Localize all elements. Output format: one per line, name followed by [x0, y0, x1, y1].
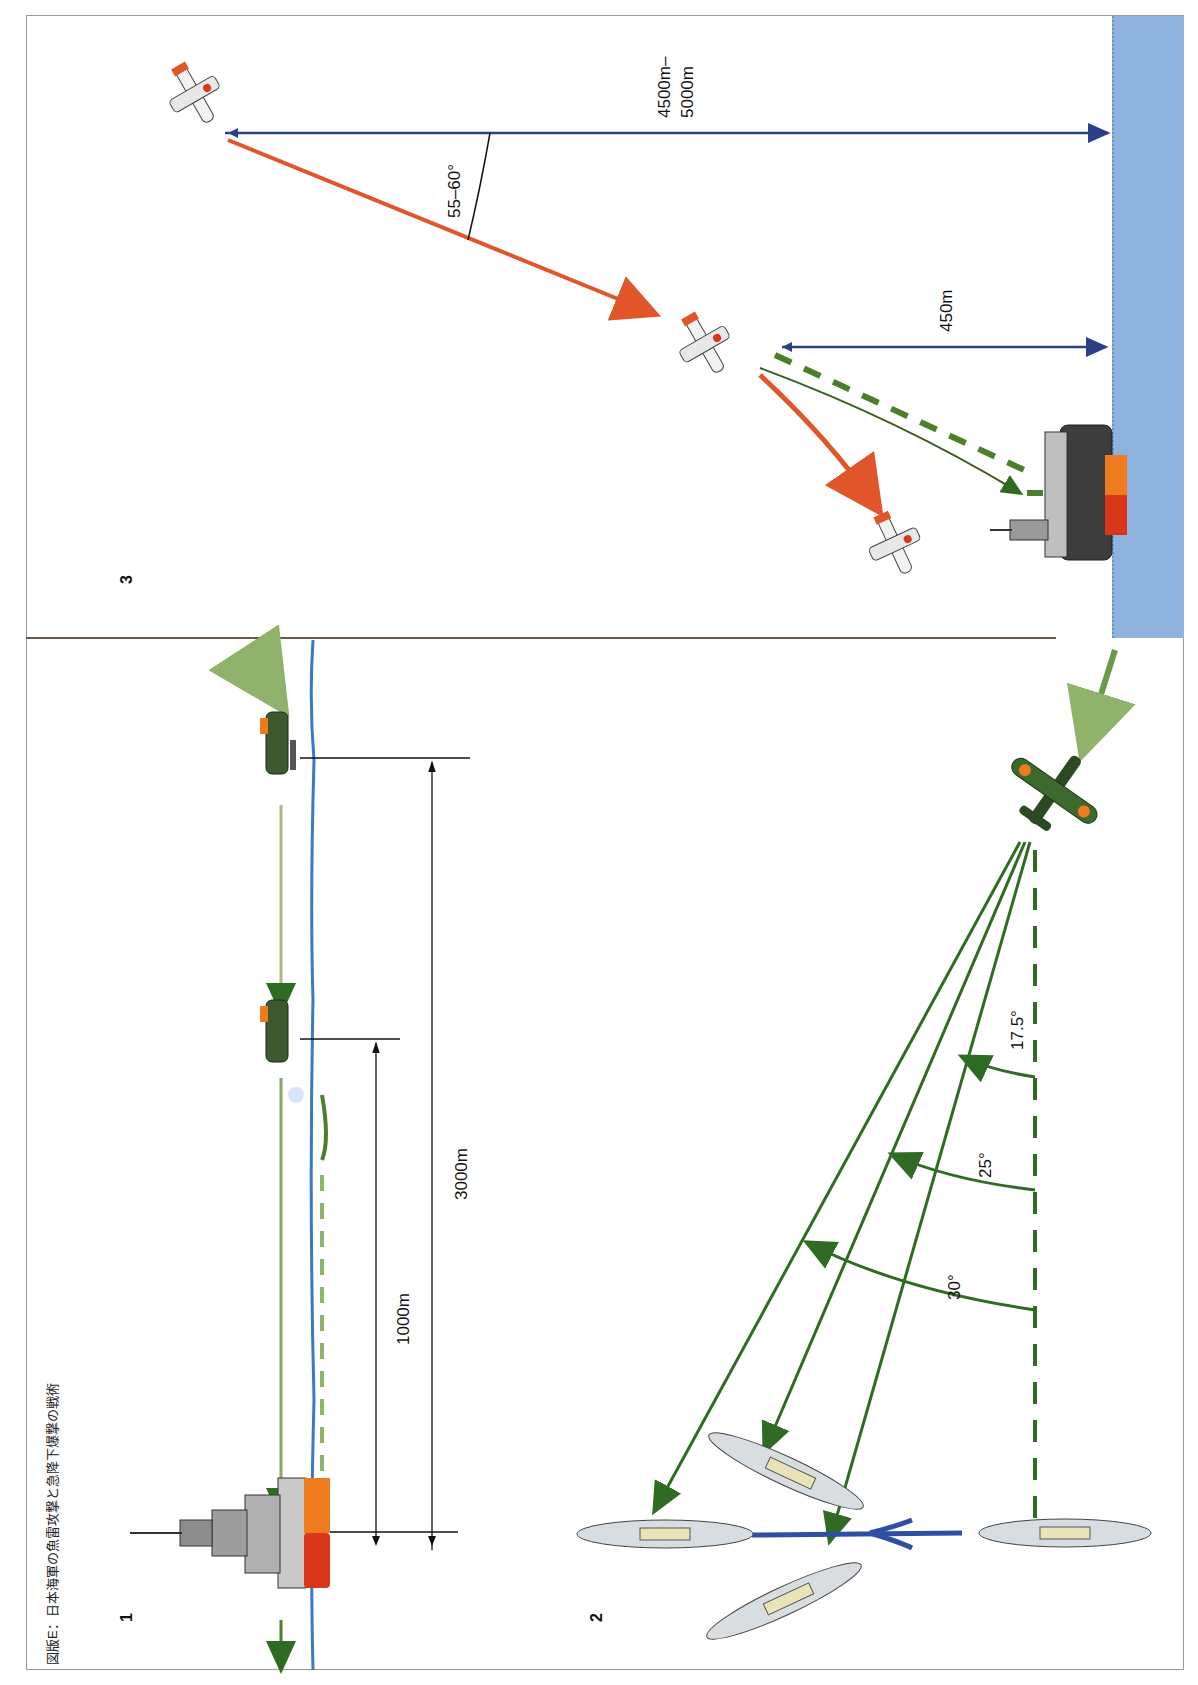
angle-label-30: 30° — [945, 1274, 965, 1300]
angle-arc-30 — [808, 1243, 1035, 1310]
torpedo-track-30 — [655, 842, 1020, 1510]
panel-2-number: 2 — [588, 1613, 606, 1622]
diagram-scene — [0, 0, 1198, 1685]
angle-label-25: 25° — [976, 1152, 996, 1178]
altitude-start-label-1: 4500m– — [655, 57, 675, 118]
angle-label-17-5: 17.5° — [1008, 1010, 1028, 1050]
dive-bomber-release — [665, 303, 742, 384]
torpedo-bomber-3000m — [260, 712, 296, 774]
bomb-trajectory — [760, 368, 1020, 493]
torpedo-bomber-1000m — [260, 1000, 288, 1062]
dive-bomber-start — [155, 53, 232, 134]
dive-path-arrow — [228, 140, 650, 312]
panel-3-dive-bombing — [155, 53, 1127, 584]
battleship-port-turn — [703, 1422, 869, 1519]
altitude-start-label-2: 5000m — [678, 66, 698, 118]
angle-arc-17-5 — [963, 1057, 1035, 1077]
approach-arrow-plan — [1085, 650, 1115, 745]
figure-caption: 図版E：日本海軍の魚雷攻撃と急降下爆撃の戦術 — [42, 1383, 61, 1665]
approach-arrow — [247, 647, 278, 700]
angle-arc-25 — [893, 1155, 1035, 1190]
dive-bomber-pullout — [857, 503, 931, 583]
bomb-wake-dashed — [775, 355, 1035, 475]
panel-3-number: 3 — [118, 575, 136, 584]
panel-1-torpedo-side — [130, 640, 470, 1670]
battleship-lead — [577, 1520, 753, 1548]
battleship-starboard-turn — [701, 1552, 867, 1649]
formation-wake — [752, 1533, 962, 1535]
dive-angle-arc — [468, 133, 490, 240]
distance-1000m-label: 1000m — [394, 1293, 414, 1345]
torpedo-track-17-5 — [830, 842, 1030, 1540]
release-altitude-label: 450m — [937, 289, 957, 332]
torpedo-bomber-plan — [991, 729, 1119, 852]
distance-3000m-label: 3000m — [452, 1148, 472, 1200]
panel-1-number: 1 — [118, 1613, 136, 1622]
target-ship-panel-1 — [130, 1478, 330, 1588]
battleship-rear — [979, 1519, 1151, 1547]
torpedo-track-25 — [765, 842, 1025, 1450]
target-ship-panel-3 — [990, 425, 1127, 560]
dive-angle-label: 55–60° — [445, 164, 465, 218]
pull-out-arrow — [760, 375, 875, 505]
panel-2-torpedo-spread — [577, 650, 1151, 1650]
